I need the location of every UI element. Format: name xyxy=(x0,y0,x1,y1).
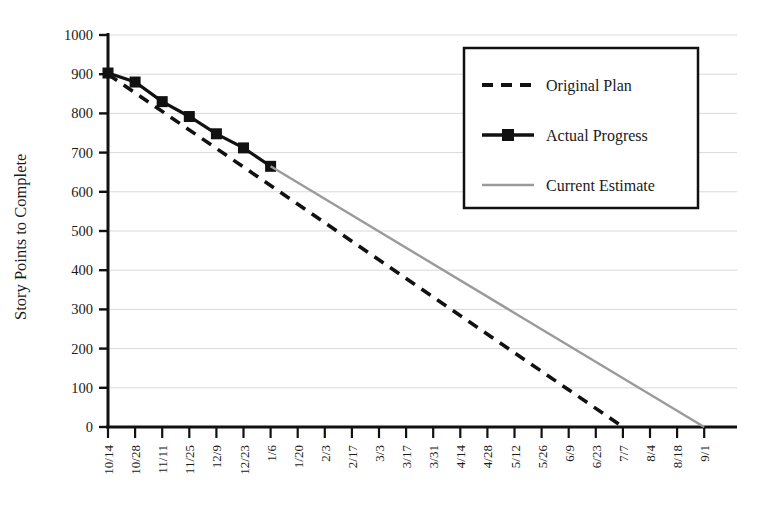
y-tick-label: 600 xyxy=(71,184,93,200)
x-tick-label: 8/18 xyxy=(670,445,685,468)
x-tick-label: 4/14 xyxy=(453,445,468,469)
data-point-marker xyxy=(157,96,168,107)
data-point-marker xyxy=(238,142,249,153)
x-tick-label: 5/12 xyxy=(508,445,523,468)
y-axis-title-text: Story Points to Complete xyxy=(11,154,30,320)
y-tick-label: 1000 xyxy=(64,27,93,43)
y-tick-label: 500 xyxy=(71,223,93,239)
burndown-chart: 01002003004005006007008009001000 10/1410… xyxy=(0,0,768,508)
y-tick-label: 100 xyxy=(71,380,93,396)
x-tick-label: 8/4 xyxy=(643,445,658,462)
x-tick-label: 7/7 xyxy=(616,445,631,462)
x-tick-label: 1/6 xyxy=(264,445,279,462)
x-tick-label: 2/17 xyxy=(345,445,360,469)
y-tick-label: 800 xyxy=(71,105,93,121)
legend: Original PlanActual ProgressCurrent Esti… xyxy=(464,48,698,208)
y-axis-title: Story Points to Complete xyxy=(11,154,30,320)
y-tick-label: 0 xyxy=(86,419,93,435)
x-tick-label: 9/1 xyxy=(697,445,712,462)
data-point-marker xyxy=(103,68,114,79)
y-tick-label: 300 xyxy=(71,301,93,317)
legend-item-label: Original Plan xyxy=(546,77,632,95)
x-tick-label: 4/28 xyxy=(480,445,495,468)
data-point-marker xyxy=(184,111,195,122)
x-tick-label: 10/28 xyxy=(128,445,143,475)
x-tick-label: 3/3 xyxy=(372,445,387,462)
x-tick-label: 10/14 xyxy=(101,445,116,475)
y-tick-label: 900 xyxy=(71,66,93,82)
legend-item-label: Current Estimate xyxy=(546,177,655,194)
x-tick-label: 2/3 xyxy=(318,445,333,462)
data-point-marker xyxy=(130,77,141,88)
y-tick-label: 200 xyxy=(71,341,93,357)
x-tick-label: 5/26 xyxy=(535,445,550,469)
x-tick-label: 3/17 xyxy=(399,445,414,469)
x-tick-label: 11/11 xyxy=(155,445,170,474)
x-tick-label: 11/25 xyxy=(182,445,197,474)
legend-item-label: Actual Progress xyxy=(546,127,648,145)
legend-swatch-square-marker xyxy=(502,129,514,141)
x-tick-label: 12/23 xyxy=(237,445,252,475)
data-point-marker xyxy=(211,128,222,139)
y-tick-label: 400 xyxy=(71,262,93,278)
x-tick-label: 6/9 xyxy=(562,445,577,462)
x-tick-label: 6/23 xyxy=(589,445,604,468)
x-tick-label: 3/31 xyxy=(426,445,441,468)
chart-canvas: 01002003004005006007008009001000 10/1410… xyxy=(0,0,768,508)
x-tick-label: 1/20 xyxy=(291,445,306,468)
x-tick-label: 12/9 xyxy=(209,445,224,468)
y-tick-label: 700 xyxy=(71,145,93,161)
